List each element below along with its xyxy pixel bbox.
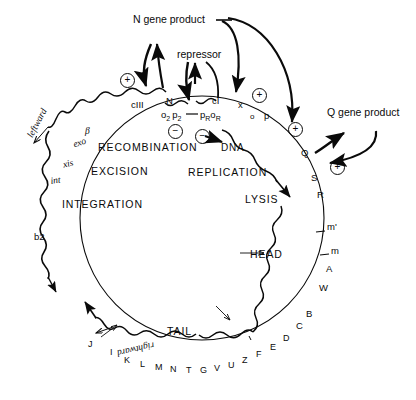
rightward-transcript-wave-lower: [199, 330, 253, 338]
arrow-Q-to-q-product: [315, 133, 344, 153]
left-promoter-sub: 2: [178, 115, 182, 122]
arrow-q-product-to-S: [330, 131, 376, 163]
left-operator-sub: 2: [166, 115, 170, 122]
arrow-n-site-to-product: [157, 44, 163, 88]
arrow-n-product-to-x: [222, 21, 239, 92]
plus-sign-x: +: [252, 88, 267, 103]
gene-N-bottom-label: N: [170, 365, 177, 374]
bottom-arc-tick: [249, 336, 251, 340]
gene-K-label: K: [124, 356, 130, 365]
gene-J-label: J: [88, 340, 93, 349]
gene-C-label: C: [296, 321, 303, 331]
gene-S-label: S: [311, 173, 317, 183]
gene-m-label: m: [331, 246, 339, 256]
gene-A-label: A: [326, 264, 332, 274]
minus-sign-left-operator: −: [168, 124, 183, 139]
right-operator-sub: R: [216, 115, 221, 122]
function-integration-label: INTEGRATION: [62, 199, 143, 210]
gene-D-label: D: [283, 334, 290, 343]
arrow-n-product-to-cIII: [144, 44, 151, 86]
function-replication-label: REPLICATION: [188, 167, 267, 178]
arrow-repressor-to-left-operator: [186, 62, 189, 100]
n-gene-product-label: N gene product: [133, 14, 205, 25]
right-promoter-operator-group: pRoR: [200, 110, 221, 122]
gene-B-label: B: [306, 309, 312, 319]
tail-transcript-arrowhead-left: [85, 302, 96, 318]
gene-b2-label: b2: [34, 232, 45, 242]
site-o-small-label: o: [250, 113, 254, 121]
function-tail-label: TAIL: [167, 326, 192, 337]
gene-int-label: int: [50, 176, 61, 187]
gene-beta-label: β: [85, 127, 90, 137]
gene-L-label: L: [140, 360, 145, 369]
gene-W-label: W: [319, 283, 328, 293]
gene-R-label: R: [317, 190, 324, 200]
gene-U-label: U: [228, 361, 235, 370]
tail-wave-tick-arrow-right: [216, 306, 230, 320]
leftward-transcript-upper: [48, 88, 166, 127]
gene-V-label: V: [214, 364, 220, 373]
lambda-genetic-map-figure: N gene product repressor Q gene product …: [0, 0, 416, 400]
gene-N-label: N: [166, 96, 173, 106]
gene-m-prime-label: m': [327, 222, 337, 232]
function-lysis-label: LYSIS: [245, 194, 279, 205]
plus-sign-cIII: +: [120, 73, 135, 88]
gene-Z-label: Z: [242, 356, 248, 365]
gene-x-label: x: [238, 100, 243, 110]
gene-cI-label: cI: [212, 96, 219, 106]
site-p-small-label: p: [264, 111, 269, 121]
gene-M-label: M: [155, 363, 163, 372]
gene-E-label: E: [270, 343, 276, 352]
gene-cIII-label: cIII: [131, 100, 144, 110]
function-head-label: HEAD: [250, 249, 283, 260]
b2-transcript-wave: [40, 131, 50, 279]
gene-T-label: T: [186, 366, 192, 375]
function-recombination-label: RECOMBINATION: [98, 142, 198, 153]
left-operator-promoter-group: o2p2: [161, 110, 181, 122]
function-dna-label: DNA: [221, 143, 245, 153]
repressor-label: repressor: [177, 49, 221, 60]
gene-I-label: I: [110, 348, 113, 357]
b2-transcript-arrowhead: [48, 277, 56, 292]
arrow-cI-to-repressor: [206, 62, 218, 98]
plus-sign-Q: +: [330, 160, 345, 175]
q-gene-product-label: Q gene product: [327, 107, 399, 118]
gene-Q-label: Q: [301, 148, 308, 158]
tail-wave-tick-arrow-left: [101, 325, 117, 337]
plus-sign-p: +: [288, 122, 303, 137]
gene-G-label: G: [200, 366, 207, 375]
function-excision-label: EXCISION: [91, 166, 148, 177]
gene-F-label: F: [256, 350, 262, 359]
